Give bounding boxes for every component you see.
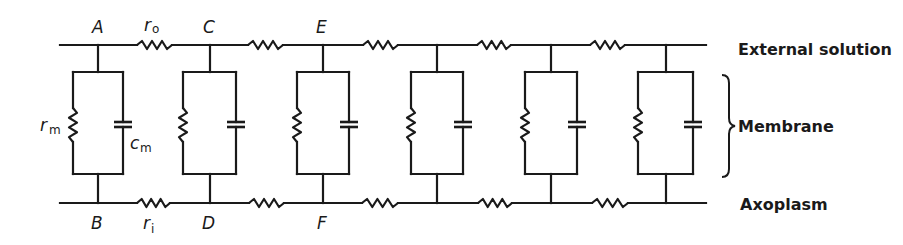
resistor-r-o-2 bbox=[248, 41, 283, 49]
svg-text:r: r bbox=[40, 115, 48, 135]
resistor-r-i-1 bbox=[137, 199, 170, 207]
node-label-e: E bbox=[316, 17, 327, 37]
node-label-a: A bbox=[91, 17, 104, 37]
resistor-r-o-5 bbox=[590, 41, 625, 49]
label-r-o: r o bbox=[144, 15, 159, 36]
label-r-i: r i bbox=[143, 213, 154, 236]
svg-text:c: c bbox=[130, 133, 140, 153]
resistor-r-o-4 bbox=[477, 41, 511, 49]
resistor-r-m-3 bbox=[293, 108, 301, 142]
label-membrane: Membrane bbox=[738, 117, 834, 136]
circuit-wires bbox=[60, 45, 706, 203]
resistor-r-i-4 bbox=[478, 199, 512, 207]
axon-cable-circuit-diagram: A C E B D F r o r i r m c m External sol… bbox=[0, 0, 903, 245]
svg-text:i: i bbox=[151, 222, 154, 236]
node-label-f: F bbox=[317, 213, 327, 233]
resistor-r-i-5 bbox=[592, 199, 628, 207]
node-label-b: B bbox=[91, 213, 103, 233]
resistor-r-o-1 bbox=[137, 41, 172, 49]
svg-text:r: r bbox=[143, 213, 151, 233]
resistor-r-m-2 bbox=[179, 108, 187, 142]
resistor-r-i-3 bbox=[362, 199, 398, 207]
node-label-d: D bbox=[202, 213, 215, 233]
membrane-brace bbox=[722, 75, 735, 177]
node-label-c: C bbox=[203, 17, 215, 37]
circuit-components bbox=[69, 41, 702, 207]
resistor-r-m-4 bbox=[407, 108, 415, 142]
label-external-solution: External solution bbox=[738, 40, 892, 59]
resistor-r-o-3 bbox=[363, 41, 398, 49]
label-c-m: c m bbox=[130, 133, 152, 155]
svg-text:m: m bbox=[140, 141, 152, 155]
resistor-r-m-6 bbox=[634, 108, 642, 142]
resistor-r-m-5 bbox=[521, 108, 529, 142]
svg-text:o: o bbox=[152, 22, 159, 36]
label-r-m: r m bbox=[40, 115, 61, 137]
resistor-r-i-2 bbox=[249, 199, 284, 207]
svg-text:m: m bbox=[49, 123, 61, 137]
resistor-r-m-1 bbox=[69, 108, 77, 142]
label-axoplasm: Axoplasm bbox=[740, 195, 828, 214]
svg-text:r: r bbox=[144, 15, 152, 35]
